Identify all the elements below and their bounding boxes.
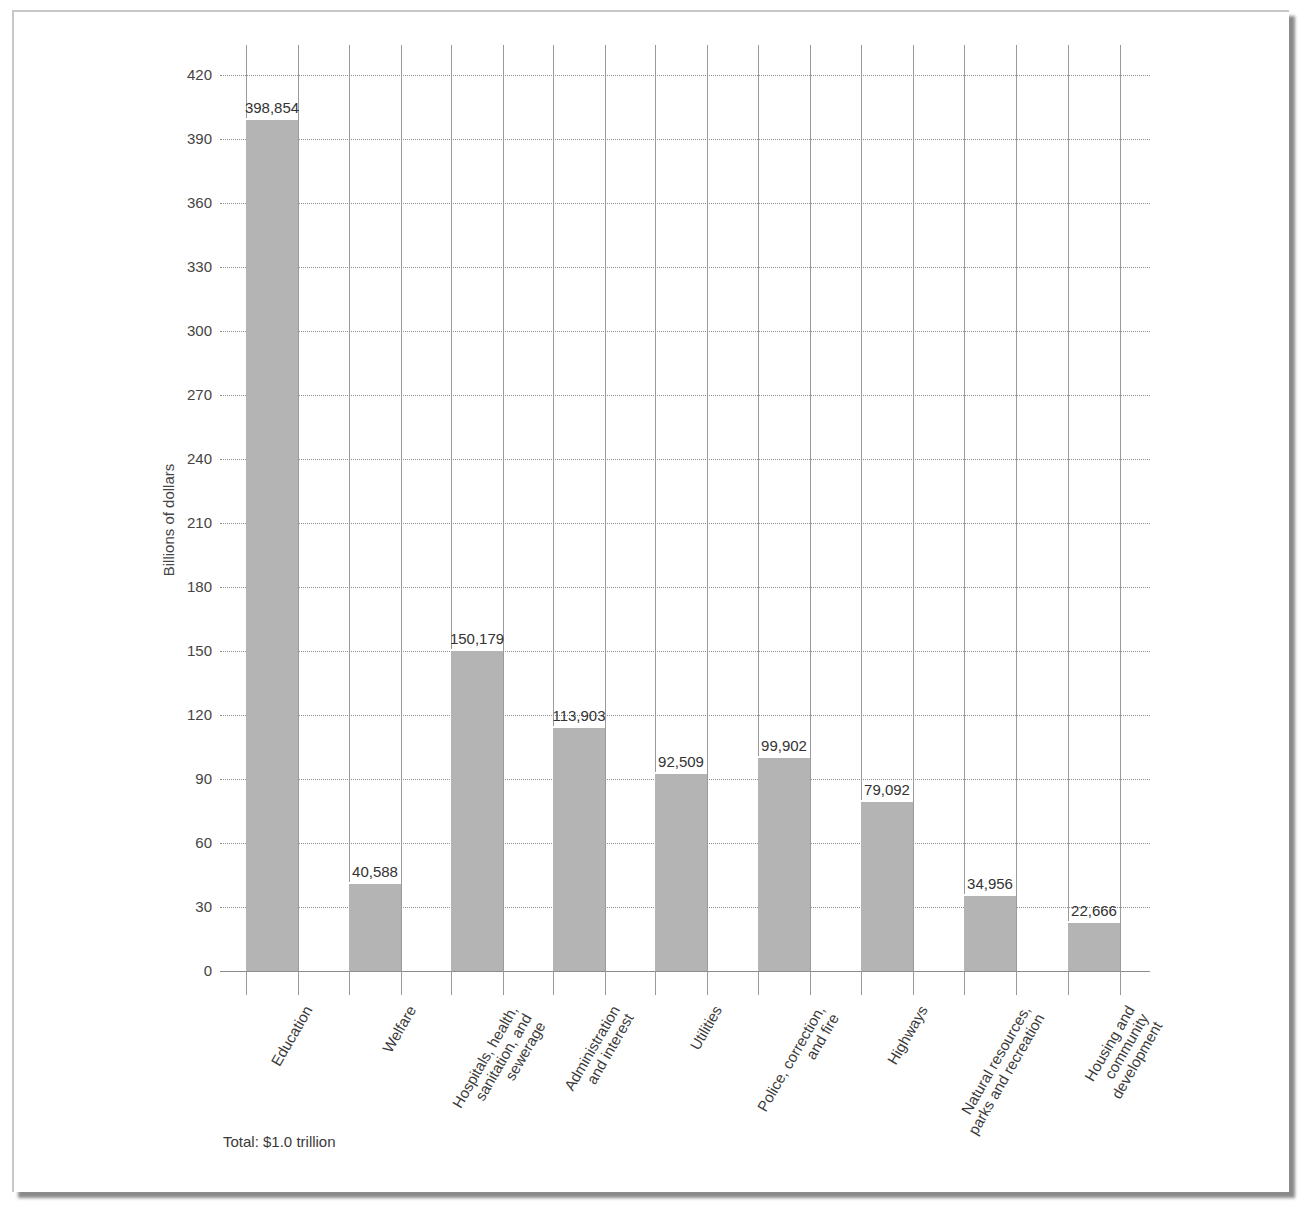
- y-tick-label: 60: [150, 835, 212, 851]
- gridline-y-330: [220, 267, 1150, 268]
- y-tick-label: 90: [150, 771, 212, 787]
- gridline-y-300: [220, 331, 1150, 332]
- bar-cap: [655, 772, 707, 774]
- x-category-label: Utilities: [687, 1003, 725, 1053]
- y-tick-label: 390: [150, 131, 212, 147]
- bar-cap: [553, 726, 605, 728]
- bar-4: [655, 774, 707, 971]
- gridline-x: [298, 45, 299, 995]
- value-label: 22,666: [1044, 902, 1144, 919]
- total-annotation: Total: $1.0 trillion: [223, 1133, 336, 1150]
- x-category-label: Welfare: [380, 1003, 420, 1056]
- y-tick-label: 150: [150, 643, 212, 659]
- gridline-x: [503, 45, 504, 995]
- bar-cap: [349, 882, 401, 884]
- gridline-x: [810, 45, 811, 995]
- gridline-x: [1016, 45, 1017, 995]
- gridline-y-210: [220, 523, 1150, 524]
- value-label: 99,902: [734, 737, 834, 754]
- gridline-x: [401, 45, 402, 995]
- x-category-label: Education: [268, 1003, 315, 1069]
- gridline-x: [605, 45, 606, 995]
- value-label: 92,509: [631, 753, 731, 770]
- gridline-x: [349, 45, 350, 995]
- x-category-label: Hospitals, health, sanitation, and sewer…: [450, 1003, 549, 1127]
- x-category-label: Natural resources, parks and recreation: [951, 1003, 1047, 1137]
- value-label: 79,092: [837, 781, 937, 798]
- y-tick-label: 330: [150, 259, 212, 275]
- bar-0: [246, 120, 298, 971]
- x-category-label: Housing and community development: [1081, 1003, 1166, 1101]
- gridline-x: [707, 45, 708, 995]
- bar-cap: [964, 894, 1016, 896]
- bar-5: [758, 758, 810, 971]
- bar-1: [349, 884, 401, 971]
- gridline-x: [964, 45, 965, 995]
- gridline-y-240: [220, 459, 1150, 460]
- y-tick-label: 210: [150, 515, 212, 531]
- y-tick-label: 270: [150, 387, 212, 403]
- bar-8: [1068, 923, 1120, 971]
- bar-cap: [861, 800, 913, 802]
- gridline-x: [1068, 45, 1069, 995]
- x-category-label: Police, correction, and fire: [755, 1003, 842, 1122]
- value-label: 40,588: [325, 863, 425, 880]
- bar-cap: [758, 756, 810, 758]
- bar-chart: Billions of dollars Total: $1.0 trillion…: [0, 0, 1307, 1211]
- y-tick-label: 120: [150, 707, 212, 723]
- gridline-y-360: [220, 203, 1150, 204]
- y-tick-label: 0: [150, 963, 212, 979]
- x-category-label: Highways: [885, 1003, 931, 1067]
- value-label: 113,903: [529, 707, 629, 724]
- x-category-label: Administration and interest: [562, 1003, 637, 1101]
- bar-6: [861, 802, 913, 971]
- y-tick-label: 360: [150, 195, 212, 211]
- gridline-y-150: [220, 651, 1150, 652]
- value-label: 398,854: [222, 99, 322, 116]
- gridline-y-420: [220, 75, 1150, 76]
- gridline-x: [913, 45, 914, 995]
- gridline-y-120: [220, 715, 1150, 716]
- bar-cap: [246, 118, 298, 120]
- value-label: 34,956: [940, 875, 1040, 892]
- bar-2: [451, 651, 503, 971]
- gridline-y-180: [220, 587, 1150, 588]
- y-tick-label: 240: [150, 451, 212, 467]
- gridline-y-390: [220, 139, 1150, 140]
- y-tick-label: 420: [150, 67, 212, 83]
- bar-3: [553, 728, 605, 971]
- y-tick-label: 30: [150, 899, 212, 915]
- gridline-y-0: [220, 971, 1150, 972]
- gridline-y-270: [220, 395, 1150, 396]
- y-tick-label: 300: [150, 323, 212, 339]
- bar-cap: [1068, 921, 1120, 923]
- y-tick-label: 180: [150, 579, 212, 595]
- bar-7: [964, 896, 1016, 971]
- value-label: 150,179: [427, 630, 527, 647]
- bar-cap: [451, 649, 503, 651]
- gridline-x: [1120, 45, 1121, 995]
